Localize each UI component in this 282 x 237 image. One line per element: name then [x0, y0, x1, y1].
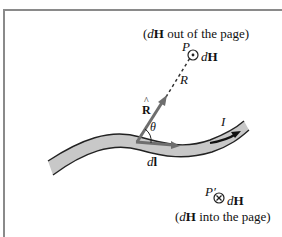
caption-into-page: (dH into the page) [175, 210, 271, 223]
distance-R-label: R [180, 73, 188, 86]
current-element-dl-label: dl [147, 155, 157, 168]
point-P-prime-field-label: dH [227, 194, 244, 207]
point-P-field-label: dH [201, 50, 218, 63]
current-I-label: I [221, 115, 225, 128]
point-P-label: P [182, 40, 190, 53]
unit-vector-R-hat-label: ^R [142, 104, 151, 116]
caption-out-of-page: (dH out of the page) [143, 27, 249, 40]
point-P-prime-label: P′ [205, 185, 216, 198]
angle-theta-label: θ [150, 121, 156, 133]
